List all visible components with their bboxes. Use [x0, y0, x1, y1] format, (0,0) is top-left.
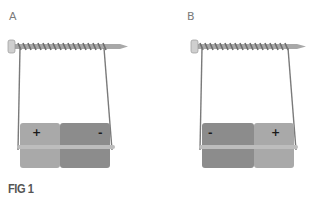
battery-b-left-sign: - — [208, 126, 213, 139]
nail-head — [8, 40, 15, 53]
wire-b-left — [200, 48, 202, 150]
wire-a-left — [18, 48, 20, 150]
battery-b: - + — [199, 123, 298, 168]
battery-b-right-sign: + — [271, 126, 280, 139]
battery-a: + - — [17, 123, 115, 168]
battery-a-band — [17, 145, 115, 149]
battery-a-left-sign: + — [32, 126, 41, 139]
panel-a: + - — [8, 40, 128, 168]
figure-caption: FIG 1 — [8, 181, 34, 196]
diagram-canvas: + - - + — [0, 0, 314, 213]
battery-a-right-sign: - — [98, 126, 103, 139]
battery-b-band — [199, 145, 298, 149]
nail-tip — [120, 44, 128, 49]
nail-head — [191, 40, 198, 53]
nail-a — [8, 40, 128, 53]
nail-tip — [297, 44, 306, 49]
panel-b: - + — [191, 40, 306, 168]
